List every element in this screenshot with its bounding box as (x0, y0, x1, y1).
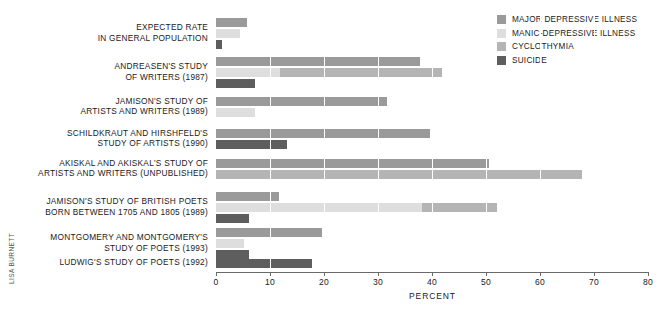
gridline (270, 14, 271, 272)
bar-segment (216, 203, 422, 212)
x-axis-tick-label: 20 (319, 277, 329, 287)
x-axis-tick (540, 272, 541, 276)
x-axis-tick-label: 80 (643, 277, 653, 287)
x-axis-tick (216, 272, 217, 276)
gridline (594, 14, 595, 272)
x-axis-tick-label: 70 (589, 277, 599, 287)
bar-segment (216, 129, 430, 138)
bar-segment (216, 29, 240, 38)
x-axis-tick-label: 60 (535, 277, 545, 287)
x-axis-tick (270, 272, 271, 276)
x-axis-tick (648, 272, 649, 276)
bar-segment (216, 18, 247, 27)
gridline (432, 14, 433, 272)
gridline (648, 14, 649, 272)
x-axis-tick-label: 0 (213, 277, 218, 287)
chart-root: LISA BURNETT MAJOR DEPRESSIVE ILLNESSMAN… (0, 0, 670, 314)
bar-segment (216, 108, 255, 117)
category-label: JAMISON'S STUDY OF BRITISH POETS BORN BE… (45, 196, 208, 217)
bar-segment (216, 239, 244, 248)
bar-segment (216, 140, 287, 149)
bar-segment (216, 250, 249, 259)
x-axis-tick-label: 40 (427, 277, 437, 287)
category-label: SCHILDKRAUT AND HIRSHFELD'S STUDY OF ART… (67, 128, 208, 149)
bar-segment (216, 79, 255, 88)
x-axis-tick-label: 50 (481, 277, 491, 287)
x-axis-tick (486, 272, 487, 276)
bar-segment (216, 214, 249, 223)
bar-segment (216, 259, 312, 268)
gridline (486, 14, 487, 272)
plot-area (216, 14, 648, 272)
category-label: JAMISON'S STUDY OF ARTISTS AND WRITERS (… (80, 96, 208, 117)
x-axis-tick-label: 30 (373, 277, 383, 287)
gridline (324, 14, 325, 272)
bar-segment (216, 159, 489, 168)
bar-segment (216, 228, 322, 237)
bar-segment (216, 97, 387, 106)
category-label: LUDWIG'S STUDY OF POETS (1992) (59, 257, 208, 268)
illustrator-credit: LISA BURNETT (8, 233, 15, 284)
bar-segment (216, 40, 222, 49)
gridline (540, 14, 541, 272)
category-label: EXPECTED RATE IN GENERAL POPULATION (98, 22, 208, 43)
category-label: MONTGOMERY AND MONTGOMERY'S STUDY OF POE… (50, 232, 208, 253)
bar-segment (280, 68, 443, 77)
x-axis-tick-label: 10 (265, 277, 275, 287)
x-axis-tick (378, 272, 379, 276)
bar-segment (216, 57, 420, 66)
category-label: ANDREASEN'S STUDY OF WRITERS (1987) (115, 61, 208, 82)
gridline (378, 14, 379, 272)
x-axis-tick (432, 272, 433, 276)
x-axis-tick (324, 272, 325, 276)
x-axis-tick (594, 272, 595, 276)
x-axis-title: PERCENT (216, 291, 649, 301)
category-label: AKISKAL AND AKISKAL'S STUDY OF ARTISTS A… (38, 158, 208, 179)
